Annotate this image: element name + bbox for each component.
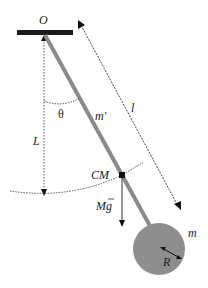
ceiling-support — [17, 30, 73, 35]
l-arrow-down-head — [41, 189, 47, 196]
angle-label: θ — [58, 107, 64, 121]
rod-length-label: l — [131, 101, 135, 115]
cm-distance-label: L — [32, 134, 40, 148]
gravity-label: Mg — [95, 199, 112, 213]
pendulum-rod — [45, 35, 150, 226]
disk-radius-label: R — [162, 255, 171, 269]
center-of-mass-label: CM — [91, 168, 110, 182]
pivot-label: O — [39, 13, 48, 27]
center-of-mass-dot — [119, 172, 125, 178]
rod-length-arrow-head-bottom — [174, 201, 181, 210]
rod-mass-label: m′ — [95, 109, 107, 123]
pendulum-diagram: O θ m′ l L CM Mg m R — [0, 0, 208, 288]
rod-length-arrow-head-top — [78, 20, 85, 29]
pendulum-disk — [133, 223, 185, 275]
angle-arc — [44, 98, 80, 104]
disk-mass-label: m — [188, 226, 197, 240]
gravity-arrow-head — [119, 220, 125, 227]
